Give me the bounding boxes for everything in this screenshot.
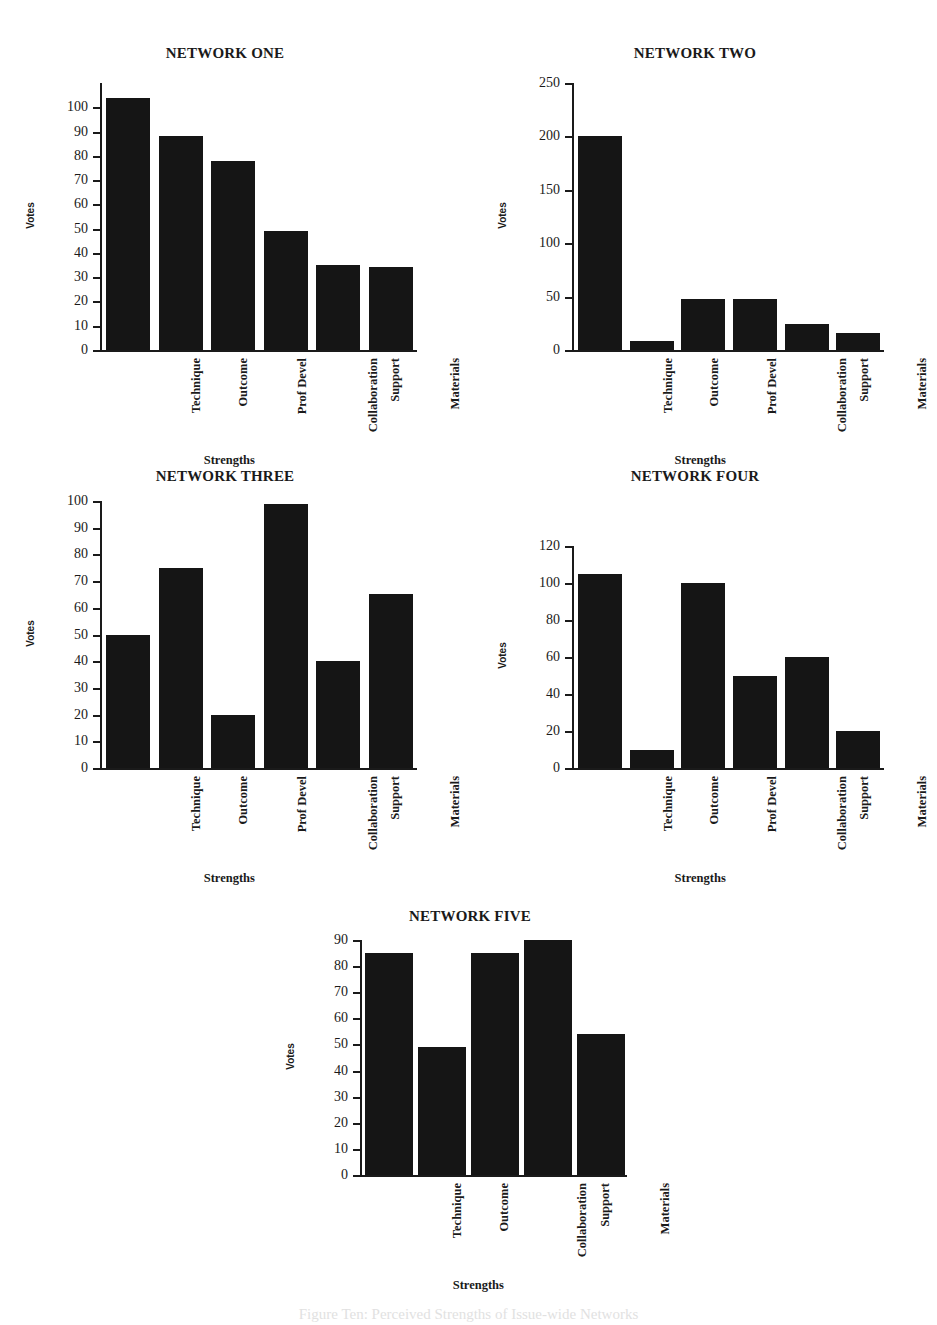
- y-tick-label: 10: [260, 1142, 348, 1156]
- y-tick: [93, 229, 101, 231]
- x-tick-label: Collaboration: [575, 1183, 590, 1257]
- chart-title: NETWORK FIVE: [260, 908, 680, 925]
- y-tick-label: 60: [30, 197, 88, 211]
- y-tick: [93, 301, 101, 303]
- y-tick: [93, 741, 101, 743]
- x-tick-label: Prof Devel: [766, 358, 781, 414]
- bar: [733, 299, 777, 350]
- bar: [524, 940, 572, 1175]
- x-tick-label: Prof Devel: [296, 776, 311, 832]
- y-tick: [353, 992, 361, 994]
- y-tick-label: 20: [30, 708, 88, 722]
- bar: [785, 324, 829, 350]
- y-tick: [93, 107, 101, 109]
- x-tick-label: Outcome: [235, 358, 250, 407]
- y-tick: [93, 253, 101, 255]
- x-tick-label: Outcome: [496, 1183, 511, 1232]
- y-axis-line: [100, 83, 102, 352]
- bar: [785, 657, 829, 768]
- figure-caption: Figure Ten: Perceived Strengths of Issue…: [0, 1306, 937, 1323]
- y-tick: [93, 608, 101, 610]
- y-tick: [565, 620, 573, 622]
- y-tick-label: 40: [260, 1064, 348, 1078]
- y-tick-label: 0: [260, 1168, 348, 1182]
- chart-title: NETWORK TWO: [500, 45, 890, 62]
- chart-title: NETWORK THREE: [30, 468, 420, 485]
- bar: [630, 750, 674, 769]
- y-tick-label: 50: [500, 290, 560, 304]
- y-tick: [353, 1123, 361, 1125]
- y-tick: [565, 546, 573, 548]
- x-axis-line: [565, 768, 884, 770]
- bar: [106, 98, 150, 350]
- x-tick-label: Technique: [189, 358, 204, 413]
- y-tick: [565, 136, 573, 138]
- y-tick-label: 30: [30, 681, 88, 695]
- y-tick: [353, 1044, 361, 1046]
- y-tick: [565, 83, 573, 85]
- y-tick-label: 120: [500, 539, 560, 553]
- y-axis-label: Votes: [25, 603, 36, 663]
- x-tick-label: Prof Devel: [296, 358, 311, 414]
- x-axis-label: Strengths: [169, 871, 289, 886]
- bar: [264, 231, 308, 350]
- bar: [681, 583, 725, 768]
- x-axis-line: [353, 1175, 627, 1177]
- y-axis-label: Votes: [497, 185, 508, 245]
- y-tick-label: 60: [500, 650, 560, 664]
- y-tick: [93, 156, 101, 158]
- bar: [578, 574, 622, 768]
- bar: [106, 635, 150, 769]
- x-tick-label: Support: [856, 776, 871, 820]
- bar: [577, 1034, 625, 1175]
- y-axis-label: Votes: [497, 626, 508, 686]
- y-tick-label: 30: [30, 270, 88, 284]
- y-tick-label: 20: [500, 724, 560, 738]
- bar: [578, 136, 622, 350]
- y-tick: [565, 657, 573, 659]
- y-tick-label: 0: [500, 343, 560, 357]
- y-tick-label: 70: [30, 173, 88, 187]
- y-tick: [565, 583, 573, 585]
- chart-5: NETWORK FIVE0102030405060708090VotesTech…: [260, 908, 665, 1325]
- y-tick: [353, 1071, 361, 1073]
- y-tick-label: 20: [30, 294, 88, 308]
- y-tick-label: 100: [30, 100, 88, 114]
- x-tick-label: Prof Devel: [766, 776, 781, 832]
- y-tick-label: 90: [30, 521, 88, 535]
- x-tick-label: Technique: [661, 776, 676, 831]
- bar: [836, 333, 880, 350]
- bar: [159, 568, 203, 768]
- y-tick: [93, 501, 101, 503]
- x-tick-label: Materials: [916, 776, 931, 827]
- y-tick-label: 100: [500, 236, 560, 250]
- x-tick-label: Collaboration: [366, 358, 381, 432]
- x-tick-label: Support: [388, 358, 403, 402]
- y-tick: [565, 731, 573, 733]
- y-tick: [93, 132, 101, 134]
- bar: [630, 341, 674, 350]
- bar: [471, 953, 519, 1175]
- bar: [159, 136, 203, 350]
- x-tick-label: Technique: [661, 358, 676, 413]
- y-tick: [353, 940, 361, 942]
- y-tick-label: 80: [260, 959, 348, 973]
- y-tick: [93, 715, 101, 717]
- y-tick-label: 0: [30, 761, 88, 775]
- y-tick-label: 80: [500, 613, 560, 627]
- x-axis-label: Strengths: [169, 453, 289, 468]
- chart-title: NETWORK FOUR: [500, 468, 890, 485]
- y-axis-line: [360, 940, 362, 1177]
- y-tick-label: 50: [30, 628, 88, 642]
- x-tick-label: Outcome: [706, 776, 721, 825]
- x-tick-label: Outcome: [235, 776, 250, 825]
- y-tick: [353, 1149, 361, 1151]
- y-tick-label: 70: [260, 985, 348, 999]
- y-tick: [93, 688, 101, 690]
- y-axis-line: [572, 83, 574, 352]
- y-tick-label: 50: [260, 1037, 348, 1051]
- y-tick-label: 50: [30, 222, 88, 236]
- y-tick-label: 10: [30, 734, 88, 748]
- bar: [316, 265, 360, 350]
- y-tick-label: 0: [500, 761, 560, 775]
